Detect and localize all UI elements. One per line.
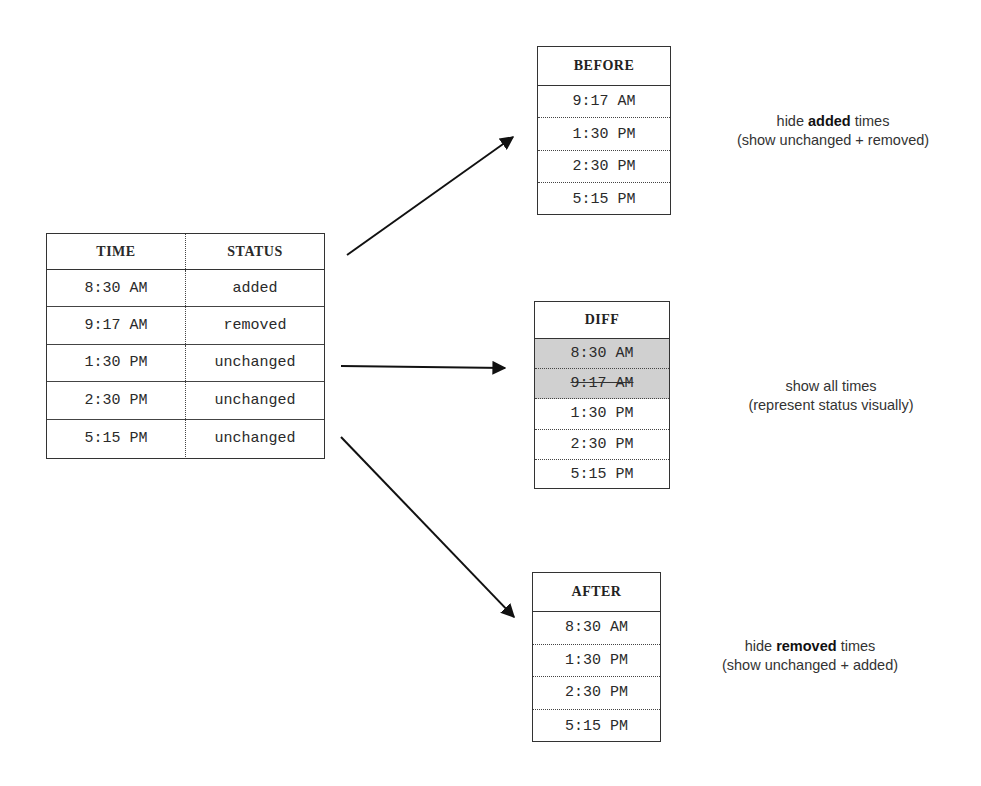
list-item: 1:30 PM (538, 118, 670, 150)
list-item: 8:30 AM (533, 612, 660, 645)
time-cell: 5:15 PM (47, 420, 186, 457)
diff-title: DIFF (535, 302, 669, 339)
list-item-removed: 9:17 AM (535, 369, 669, 399)
status-cell: unchanged (186, 345, 324, 381)
status-cell: unchanged (186, 420, 324, 457)
time-cell: 2:30 PM (47, 382, 186, 418)
table-row: 2:30 PM unchanged (47, 382, 324, 419)
list-item: 1:30 PM (533, 645, 660, 678)
status-cell: added (186, 270, 324, 306)
arrow-to-after (341, 437, 514, 617)
table-row: 5:15 PM unchanged (47, 420, 324, 457)
table-row: 1:30 PM unchanged (47, 345, 324, 382)
list-item: 2:30 PM (535, 430, 669, 460)
before-title: BEFORE (538, 47, 670, 86)
arrow-to-diff (341, 366, 505, 368)
list-item: 5:15 PM (538, 183, 670, 215)
diff-table: DIFF 8:30 AM 9:17 AM 1:30 PM 2:30 PM 5:1… (534, 301, 670, 489)
status-cell: unchanged (186, 382, 324, 418)
list-item-added: 8:30 AM (535, 339, 669, 369)
before-table: BEFORE 9:17 AM 1:30 PM 2:30 PM 5:15 PM (537, 46, 671, 215)
before-caption: hide added times (show unchanged + remov… (703, 112, 963, 150)
status-cell: removed (186, 307, 324, 343)
list-item: 2:30 PM (533, 677, 660, 710)
arrow-to-before (347, 137, 513, 255)
list-item: 5:15 PM (533, 710, 660, 743)
column-header-status: STATUS (186, 234, 324, 269)
table-row: 9:17 AM removed (47, 307, 324, 344)
table-header-row: TIME STATUS (47, 234, 324, 270)
list-item: 1:30 PM (535, 399, 669, 429)
diff-caption: show all times (represent status visuall… (701, 377, 961, 415)
list-item: 5:15 PM (535, 460, 669, 490)
after-table: AFTER 8:30 AM 1:30 PM 2:30 PM 5:15 PM (532, 572, 661, 742)
time-cell: 8:30 AM (47, 270, 186, 306)
column-header-time: TIME (47, 234, 186, 269)
table-row: 8:30 AM added (47, 270, 324, 307)
list-item: 9:17 AM (538, 86, 670, 118)
time-cell: 9:17 AM (47, 307, 186, 343)
after-caption: hide removed times (show unchanged + add… (680, 637, 940, 675)
time-cell: 1:30 PM (47, 345, 186, 381)
after-title: AFTER (533, 573, 660, 612)
list-item: 2:30 PM (538, 151, 670, 183)
status-table: TIME STATUS 8:30 AM added 9:17 AM remove… (46, 233, 325, 459)
